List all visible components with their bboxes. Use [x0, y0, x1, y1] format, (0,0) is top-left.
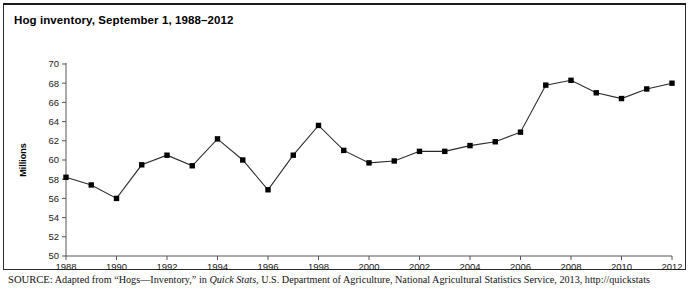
y-axis-tick-label: 62: [48, 135, 59, 146]
x-axis-tick-label: 1992: [156, 261, 177, 272]
data-point-marker: [392, 158, 397, 163]
data-point-marker: [619, 96, 624, 101]
data-point-marker: [341, 148, 346, 153]
y-axis-tick-label: 60: [48, 154, 59, 165]
x-axis-tick-label: 2006: [510, 261, 531, 272]
x-axis-tick-label: 1990: [106, 261, 127, 272]
data-point-marker: [139, 162, 144, 167]
y-axis-tick-label: 64: [48, 116, 59, 127]
data-point-marker: [164, 153, 169, 158]
source-text-before: Adapted from “Hogs—Inventory,” in: [53, 274, 210, 285]
data-point-marker: [644, 86, 649, 91]
data-point-marker: [417, 149, 422, 154]
x-axis-tick-label: 2010: [611, 261, 632, 272]
x-axis-tick-label: 2000: [358, 261, 379, 272]
y-axis-tick-label: 68: [48, 78, 59, 89]
y-axis-tick-label: 66: [48, 97, 59, 108]
chart-plot-area: 5052545658606264666870198819901992199419…: [0, 0, 689, 272]
data-point-marker: [89, 182, 94, 187]
data-point-marker: [114, 196, 119, 201]
y-axis-tick-label: 52: [48, 231, 59, 242]
data-series-line: [66, 80, 672, 198]
x-axis-tick-label: 2004: [459, 261, 480, 272]
data-point-marker: [518, 129, 523, 134]
y-axis-tick-label: 58: [48, 174, 59, 185]
x-axis-tick-label: 1996: [257, 261, 278, 272]
source-text-after: , U.S. Department of Agriculture, Nation…: [256, 274, 650, 285]
x-axis-tick-label: 1994: [207, 261, 228, 272]
x-axis-tick-label: 2012: [661, 261, 682, 272]
y-axis-title: Millions: [18, 143, 28, 177]
data-point-marker: [543, 82, 548, 87]
source-note: SOURCE: Adapted from “Hogs—Inventory,” i…: [8, 274, 686, 285]
figure-container: Hog inventory, September 1, 1988–2012 50…: [0, 0, 689, 292]
x-axis-tick-label: 2002: [409, 261, 430, 272]
x-axis-tick-label: 2008: [560, 261, 581, 272]
data-point-marker: [467, 143, 472, 148]
data-point-marker: [366, 160, 371, 165]
y-axis-tick-label: 54: [48, 212, 59, 223]
line-chart: 5052545658606264666870198819901992199419…: [0, 0, 689, 272]
data-point-marker: [493, 139, 498, 144]
data-point-marker: [669, 81, 674, 86]
data-point-marker: [215, 136, 220, 141]
y-axis-tick-label: 56: [48, 193, 59, 204]
source-kicker: SOURCE:: [8, 274, 53, 285]
data-point-marker: [63, 175, 68, 180]
data-point-marker: [442, 149, 447, 154]
source-publication: Quick Stats: [209, 274, 256, 285]
data-point-marker: [594, 90, 599, 95]
data-point-marker: [568, 78, 573, 83]
y-axis-tick-label: 70: [48, 58, 59, 69]
x-axis-tick-label: 1988: [55, 261, 76, 272]
data-point-marker: [265, 187, 270, 192]
data-point-marker: [240, 157, 245, 162]
x-axis-tick-label: 1998: [308, 261, 329, 272]
data-point-marker: [291, 153, 296, 158]
y-axis-tick-label: 50: [48, 250, 59, 261]
data-point-marker: [316, 123, 321, 128]
data-point-marker: [190, 163, 195, 168]
